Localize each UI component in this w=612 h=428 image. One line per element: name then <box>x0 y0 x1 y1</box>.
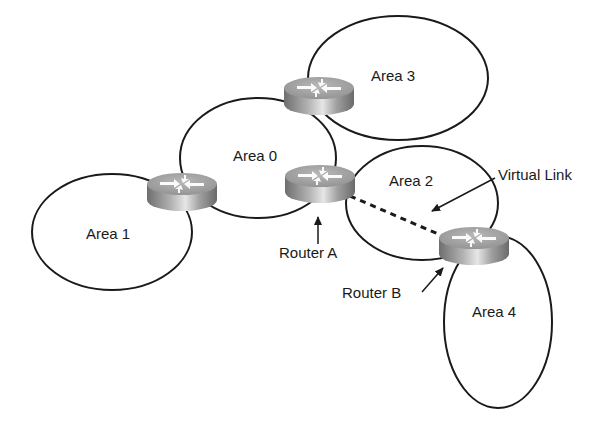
ospf-diagram <box>0 0 612 428</box>
virtual-link-arrow <box>432 178 495 211</box>
router-b-icon <box>439 227 509 265</box>
router-b-label: Router B <box>342 284 401 301</box>
virtual-link-line <box>350 196 452 240</box>
router-icon-area0-area3 <box>284 77 354 115</box>
area-4-label: Area 4 <box>472 303 516 320</box>
router-icon-area0-area1 <box>147 173 217 211</box>
area-2-label: Area 2 <box>389 172 433 189</box>
router-a-label: Router A <box>279 244 337 261</box>
area-1-label: Area 1 <box>86 225 130 242</box>
router-a-icon <box>285 165 355 203</box>
area-3-label: Area 3 <box>371 67 415 84</box>
router-b-arrow <box>422 268 443 292</box>
area-0-label: Area 0 <box>233 147 277 164</box>
virtual-link-label: Virtual Link <box>498 166 572 183</box>
